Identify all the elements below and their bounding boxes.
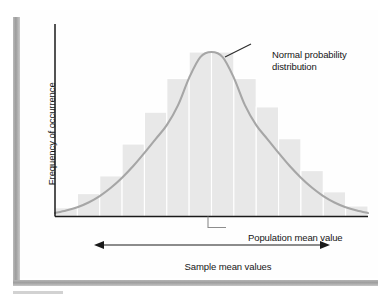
bar [234, 79, 256, 217]
decorative-bottom-rail [13, 280, 378, 286]
curve-annotation-label: Normal probability distribution [272, 49, 382, 72]
x-axis-label: Sample mean values [115, 261, 341, 273]
figure-container: Frequency of occurrence Normal probabili… [0, 0, 391, 299]
bar [323, 192, 345, 217]
bar [167, 79, 189, 217]
decorative-bottom-stub [13, 291, 63, 294]
population-mean-label: Population mean value [248, 232, 343, 244]
curve-annotation-leader-line [225, 44, 251, 57]
bar [256, 107, 278, 217]
bar [279, 139, 301, 217]
decorative-left-rail [13, 17, 20, 282]
arrow-head-left [94, 241, 104, 249]
chart-panel: Frequency of occurrence Normal probabili… [20, 10, 378, 278]
population-mean-leader-line [208, 217, 226, 228]
bar [212, 52, 234, 217]
histogram-bars [55, 52, 368, 217]
bar [144, 112, 166, 216]
bar [189, 52, 211, 217]
bar [122, 144, 144, 217]
y-axis-label: Frequency of occurrence [46, 64, 58, 204]
